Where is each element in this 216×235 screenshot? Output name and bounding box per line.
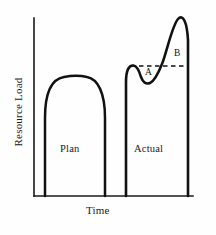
plan-curve: [45, 76, 105, 196]
region-b-label: B: [174, 48, 180, 58]
x-axis-label: Time: [86, 204, 110, 216]
region-a-label: A: [145, 67, 152, 77]
plan-curve-label: Plan: [60, 143, 79, 154]
resource-load-chart: Resource Load Time Plan Actual A B: [0, 0, 216, 235]
actual-curve: [126, 17, 188, 196]
y-axis-label: Resource Load: [12, 73, 24, 151]
chart-canvas: [0, 0, 216, 235]
actual-curve-label: Actual: [134, 143, 163, 154]
